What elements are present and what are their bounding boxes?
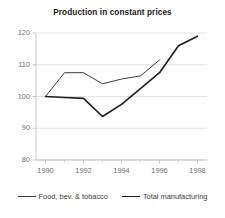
chart-container: Production in constant prices 1201101009… <box>0 0 225 218</box>
legend-line-swatch <box>18 196 36 197</box>
x-tick-label: 1998 <box>183 166 213 175</box>
x-tick-label: 1992 <box>69 166 99 175</box>
plot-area <box>0 0 225 218</box>
x-tick-label: 1994 <box>107 166 137 175</box>
series-line-2 <box>46 36 198 116</box>
gridlines <box>36 33 207 160</box>
legend-label: Total manufacturing <box>143 192 208 201</box>
chart-legend: Food, bev. & tobaccoTotal manufacturing <box>0 192 225 201</box>
legend-item[interactable]: Total manufacturing <box>122 192 208 201</box>
series-line-1 <box>46 60 160 97</box>
legend-line-swatch <box>122 196 140 198</box>
x-tick-label: 1996 <box>145 166 175 175</box>
y-tick-label: 100 <box>8 92 30 101</box>
legend-label: Food, bev. & tobacco <box>39 192 108 201</box>
y-tick-label: 120 <box>8 28 30 37</box>
y-tick-label: 80 <box>8 155 30 164</box>
legend-item[interactable]: Food, bev. & tobacco <box>18 192 108 201</box>
series-lines <box>46 36 198 116</box>
y-tick-label: 90 <box>8 123 30 132</box>
x-tick-label: 1990 <box>31 166 61 175</box>
y-tick-label: 110 <box>8 60 30 69</box>
